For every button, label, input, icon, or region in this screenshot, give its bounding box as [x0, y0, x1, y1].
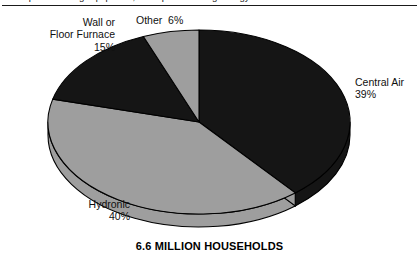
pie-label-central-air: Central Air 39% [355, 76, 419, 101]
pie-label-wall-or-floor-furnace: Wall or Floor Furnace 15% [0, 16, 115, 53]
chart-caption: 6.6 MILLION HOUSEHOLDS [0, 240, 419, 252]
chart-page: space heating equipment, and space heati… [0, 0, 419, 268]
pie-label-hydronic: Hydronic 40% [16, 198, 130, 223]
pie-label-other: Other 6% [136, 14, 256, 26]
